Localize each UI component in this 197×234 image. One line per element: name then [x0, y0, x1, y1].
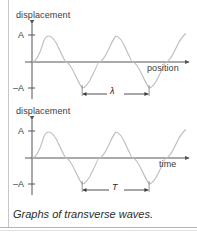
sine-curve-position-graph: [32, 34, 186, 89]
x-axis-label-time-graph: time: [159, 159, 176, 169]
figure-caption: Graphs of transverse waves.: [13, 208, 153, 220]
x-axis-label-position-graph: position: [147, 63, 179, 73]
tick-label-amplitude-positive-position-graph: A: [18, 30, 24, 40]
y-axis-label-time-graph: displacement: [16, 106, 70, 116]
tick-label-amplitude-positive-time-graph: A: [18, 126, 24, 136]
transverse-waves-figure: displacement A –A position λ displacemen…: [0, 0, 197, 234]
y-axis-label-position-graph: displacement: [16, 10, 70, 20]
sine-curve-time-graph: [32, 130, 186, 185]
wavelength-symbol-label: λ: [110, 86, 114, 96]
tick-label-amplitude-negative-time-graph: –A: [13, 179, 24, 189]
wavelength-graph-geometry: [25, 24, 189, 99]
period-symbol-label: T: [112, 182, 118, 192]
period-graph-geometry: [25, 120, 189, 195]
waves-plot-svg: [0, 0, 197, 234]
tick-label-amplitude-negative-position-graph: –A: [13, 83, 24, 93]
